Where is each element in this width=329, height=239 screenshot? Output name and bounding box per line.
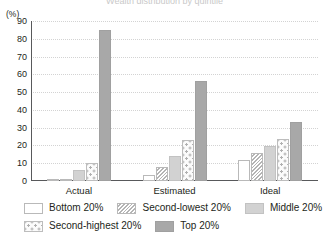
bar-group-actual: Actual <box>31 21 127 181</box>
legend-row-2: Second-highest 20%Top 20% <box>14 217 315 235</box>
bar-actual-top-20 <box>99 30 111 181</box>
y-axis-tick-label: 40 <box>17 105 27 114</box>
bar-estimated-top-20 <box>195 81 207 181</box>
bar-estimated-bottom-20 <box>143 175 155 181</box>
bar-actual-second-lowest-20 <box>60 179 72 181</box>
y-axis-tick-label: 20 <box>17 141 27 150</box>
legend-item-top-20[interactable]: Top 20% <box>155 220 219 232</box>
bar-ideal-middle-20 <box>264 146 276 181</box>
legend-swatch-top-20-icon <box>155 221 174 232</box>
x-axis-label-actual: Actual <box>31 185 127 196</box>
y-axis-tick-label: 30 <box>17 123 27 132</box>
legend-swatch-second-lowest-20-icon <box>117 203 136 214</box>
legend-swatch-second-highest-20-icon <box>24 221 43 232</box>
legend-item-second-highest-20[interactable]: Second-highest 20% <box>24 220 141 232</box>
bar-estimated-second-highest-20 <box>182 140 194 181</box>
bar-actual-bottom-20 <box>47 179 59 181</box>
legend-swatch-bottom-20-icon <box>24 203 43 214</box>
chart-title-clipped: Wealth distribution by quintile <box>0 0 329 8</box>
legend-label-second-lowest-20: Second-lowest 20% <box>142 202 230 214</box>
legend-label-second-highest-20: Second-highest 20% <box>49 220 141 232</box>
bar-group-ideal: Ideal <box>222 21 318 181</box>
plot-area: 0102030405060708090 ActualEstimatedIdeal <box>31 21 318 181</box>
x-axis-label-ideal: Ideal <box>222 185 318 196</box>
chart-title-text: Wealth distribution by quintile <box>0 0 329 6</box>
bar-ideal-bottom-20 <box>238 160 250 181</box>
legend-swatch-middle-20-icon <box>245 203 264 214</box>
y-axis-tick-label: 80 <box>17 34 27 43</box>
bar-groups: ActualEstimatedIdeal <box>31 21 318 181</box>
bar-ideal-second-lowest-20 <box>251 153 263 181</box>
legend-label-middle-20: Middle 20% <box>270 202 322 214</box>
chart-legend: Bottom 20%Second-lowest 20%Middle 20% Se… <box>0 199 329 235</box>
bar-estimated-middle-20 <box>169 156 181 181</box>
legend-item-bottom-20[interactable]: Bottom 20% <box>24 202 103 214</box>
bar-ideal-second-highest-20 <box>277 139 289 181</box>
x-axis-label-estimated: Estimated <box>127 185 223 196</box>
y-axis-tick-label: 10 <box>17 159 27 168</box>
y-axis-tick-label: 60 <box>17 70 27 79</box>
legend-label-bottom-20: Bottom 20% <box>49 202 103 214</box>
bar-actual-middle-20 <box>73 170 85 181</box>
y-axis-tick-label: 70 <box>17 52 27 61</box>
bar-estimated-second-lowest-20 <box>156 167 168 181</box>
y-axis-tick-label: 90 <box>17 17 27 26</box>
bar-group-estimated: Estimated <box>127 21 223 181</box>
bar-chart: Wealth distribution by quintile (%) 0102… <box>0 0 329 239</box>
bar-ideal-top-20 <box>290 122 302 181</box>
legend-item-second-lowest-20[interactable]: Second-lowest 20% <box>117 202 230 214</box>
legend-label-top-20: Top 20% <box>180 220 219 232</box>
y-axis-tick-label: 50 <box>17 88 27 97</box>
legend-row-1: Bottom 20%Second-lowest 20%Middle 20% <box>14 199 315 217</box>
legend-item-middle-20[interactable]: Middle 20% <box>245 202 322 214</box>
y-axis-tick-label: 0 <box>22 177 27 186</box>
bar-actual-second-highest-20 <box>86 163 98 181</box>
